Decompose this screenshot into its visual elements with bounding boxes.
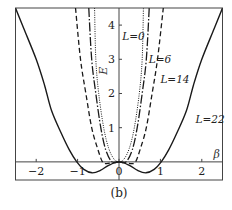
- y-tick-label: 3: [108, 53, 115, 66]
- y-axis-label: E: [97, 67, 110, 76]
- curve-label-l-6: L=6: [148, 53, 172, 65]
- y-tick-label: 4: [108, 19, 115, 32]
- x-tick-label: 2: [198, 165, 205, 178]
- curve-label-l-22: L=22: [195, 113, 225, 125]
- x-axis-label: β: [213, 148, 220, 161]
- y-tick-label: 1: [108, 122, 115, 135]
- x-tick-label: −1: [69, 165, 85, 178]
- figure-caption: (b): [0, 186, 232, 200]
- x-tick-label: −2: [28, 165, 44, 178]
- curve-label-l-0: L=0: [121, 30, 145, 42]
- y-tick-label: 2: [108, 87, 115, 100]
- curve-label-l-14: L=14: [159, 73, 189, 85]
- energy-vs-beta-chart: −2−10121234βE L=22L=14L=6L=0: [0, 0, 232, 186]
- x-tick-label: 0: [116, 165, 123, 178]
